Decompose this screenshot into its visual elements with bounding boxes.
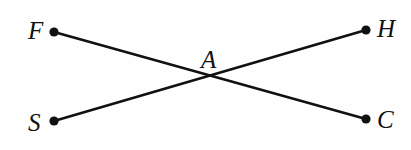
point-dot-s xyxy=(49,116,58,125)
geometry-diagram-canvas: F H S C A xyxy=(0,0,411,150)
segment-sh xyxy=(54,30,366,121)
segments-group xyxy=(54,30,366,121)
point-label-f: F xyxy=(28,18,43,43)
point-label-c: C xyxy=(377,107,394,132)
point-dot-h xyxy=(361,25,370,34)
point-dot-c xyxy=(361,114,370,123)
geometry-figure xyxy=(0,0,411,150)
point-label-h: H xyxy=(377,16,395,41)
point-label-a: A xyxy=(201,47,216,72)
point-dot-f xyxy=(49,27,58,36)
point-label-s: S xyxy=(28,110,41,135)
